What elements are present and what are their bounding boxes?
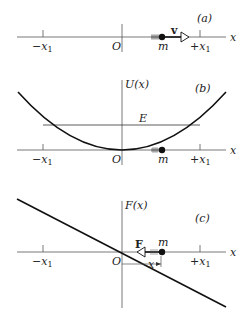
displacement-label: x xyxy=(148,258,155,271)
pos-x1-label: +x1 xyxy=(190,255,211,269)
x-axis-label: x xyxy=(230,246,237,259)
panel-c: x F m F(x) (c) x O −x1 +x1 xyxy=(17,199,237,308)
panel-label: (c) xyxy=(195,212,210,225)
velocity-label: v xyxy=(170,24,178,37)
origin-label: O xyxy=(112,255,121,268)
f-axis-label: F(x) xyxy=(124,199,147,212)
displacement-arrow-icon xyxy=(156,262,161,266)
panel-label: (a) xyxy=(197,12,212,25)
neg-x1-label: −x1 xyxy=(32,40,53,54)
mass-label: m xyxy=(158,236,168,249)
panel-b: U(x) (b) E x O m −x1 +x1 xyxy=(17,78,237,167)
pos-x1-label: +x1 xyxy=(190,153,211,167)
pos-x1-label: +x1 xyxy=(190,40,211,54)
origin-label: O xyxy=(112,153,121,166)
panel-a: v m (a) x O −x1 +x1 xyxy=(17,12,237,54)
oscillator-diagram: v m (a) x O −x1 +x1 U(x) (b) E x O xyxy=(0,0,244,325)
velocity-arrowhead-icon xyxy=(181,32,189,42)
u-axis-label: U(x) xyxy=(125,78,149,91)
neg-x1-label: −x1 xyxy=(32,255,53,269)
x-axis-label: x xyxy=(230,144,237,157)
origin-label: O xyxy=(112,40,121,53)
panel-label: (b) xyxy=(195,82,211,95)
x-axis-label: x xyxy=(230,31,237,44)
neg-x1-label: −x1 xyxy=(32,153,53,167)
energy-label: E xyxy=(138,112,147,125)
mass-label: m xyxy=(158,40,168,53)
mass-label: m xyxy=(158,153,168,166)
mass-icon xyxy=(159,249,165,255)
force-label: F xyxy=(135,238,143,251)
